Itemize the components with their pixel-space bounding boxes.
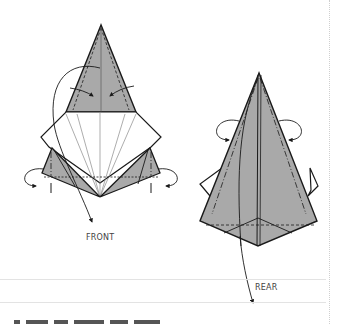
- front-label: FRONT: [86, 233, 114, 242]
- page-rule: [0, 302, 326, 303]
- rear-figure: [200, 73, 318, 303]
- origami-diagram: [0, 0, 337, 324]
- rear-label: REAR: [255, 283, 277, 292]
- cropped-text-line: [14, 313, 214, 324]
- rear-long-arrow: [240, 236, 253, 303]
- rear-right-flap: [308, 168, 318, 196]
- rear-body: [200, 73, 317, 246]
- front-loop-arrow-left: [25, 169, 44, 186]
- front-loop-arrow-right: [158, 169, 177, 186]
- front-figure: [25, 25, 178, 222]
- margin-guide-line: [329, 0, 330, 324]
- page-rule: [0, 279, 326, 280]
